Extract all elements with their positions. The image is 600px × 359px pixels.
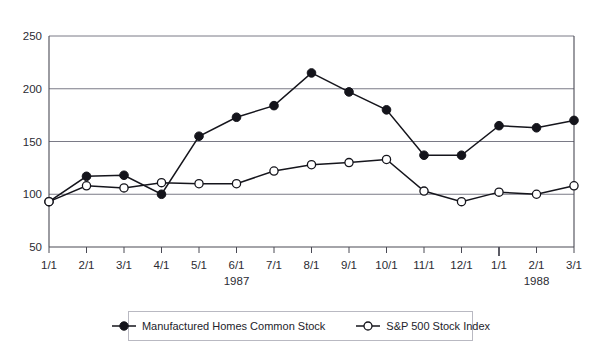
x-axis-tick-label: 2/1	[79, 259, 95, 271]
data-point-sp500	[232, 180, 240, 188]
data-point-manufactured-homes	[232, 113, 241, 122]
data-point-sp500	[195, 180, 203, 188]
data-point-sp500	[45, 198, 53, 206]
x-axis-tick-label: 5/1	[191, 259, 207, 271]
data-point-manufactured-homes	[307, 69, 316, 78]
data-point-sp500	[457, 198, 465, 206]
data-point-sp500	[120, 184, 128, 192]
open-circle-marker-icon	[355, 320, 381, 332]
x-axis-tick-label: 11/1	[413, 259, 435, 271]
data-point-manufactured-homes	[532, 123, 541, 132]
y-axis-tick-label: 200	[23, 83, 42, 95]
data-point-manufactured-homes	[420, 151, 429, 160]
data-point-manufactured-homes	[382, 106, 391, 115]
filled-circle-marker-icon	[111, 320, 137, 332]
data-point-manufactured-homes	[157, 190, 166, 199]
legend-label-sp500: S&P 500 Stock Index	[386, 320, 490, 332]
x-axis-tick-label: 1/1	[491, 259, 507, 271]
data-point-sp500	[382, 155, 390, 163]
y-axis-tick-label: 100	[23, 188, 42, 200]
data-point-sp500	[307, 161, 315, 169]
x-axis-tick-label: 7/1	[266, 259, 282, 271]
data-point-manufactured-homes	[270, 101, 279, 110]
data-point-manufactured-homes	[345, 88, 354, 97]
data-point-sp500	[157, 179, 165, 187]
data-point-sp500	[345, 159, 353, 167]
data-point-manufactured-homes	[570, 116, 579, 125]
data-point-manufactured-homes	[457, 151, 466, 160]
data-point-sp500	[82, 182, 90, 190]
data-point-sp500	[570, 182, 578, 190]
y-axis-tick-label: 150	[23, 136, 42, 148]
data-point-manufactured-homes	[82, 172, 91, 181]
x-axis-tick-label: 1/1	[41, 259, 57, 271]
legend-item-manufactured-homes: Manufactured Homes Common Stock	[111, 320, 325, 332]
data-point-manufactured-homes	[195, 132, 204, 141]
data-point-sp500	[270, 167, 278, 175]
legend-item-sp500: S&P 500 Stock Index	[355, 320, 490, 332]
x-axis-tick-label: 3/1	[566, 259, 582, 271]
y-axis-tick-label: 50	[29, 241, 42, 253]
data-point-sp500	[420, 187, 428, 195]
x-axis-year-label: 1988	[524, 275, 550, 287]
series-line-manufactured-homes	[49, 73, 574, 202]
x-axis-tick-label: 12/1	[450, 259, 472, 271]
x-axis-tick-label: 4/1	[154, 259, 170, 271]
x-axis-tick-label: 10/1	[375, 259, 397, 271]
x-axis-tick-label: 9/1	[341, 259, 357, 271]
chart-plot-area: 501001502002501/12/13/14/15/16/17/18/19/…	[0, 0, 600, 359]
data-point-manufactured-homes	[120, 171, 129, 180]
x-axis-tick-label: 6/1	[229, 259, 245, 271]
x-axis-tick-label: 8/1	[304, 259, 320, 271]
x-axis-tick-label: 3/1	[116, 259, 132, 271]
stock-performance-chart: 501001502002501/12/13/14/15/16/17/18/19/…	[0, 0, 600, 359]
data-point-sp500	[495, 188, 503, 196]
data-point-manufactured-homes	[495, 121, 504, 130]
data-point-sp500	[532, 190, 540, 198]
chart-legend: Manufactured Homes Common Stock S&P 500 …	[128, 311, 473, 341]
legend-label-manufactured-homes: Manufactured Homes Common Stock	[142, 320, 325, 332]
x-axis-year-label: 1987	[224, 275, 250, 287]
x-axis-tick-label: 2/1	[529, 259, 545, 271]
y-axis-tick-label: 250	[23, 30, 42, 42]
